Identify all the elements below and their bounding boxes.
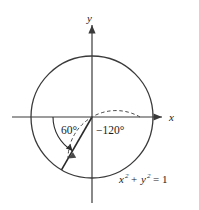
x-axis-label: x xyxy=(168,111,174,123)
angle-minus-120-label: −120° xyxy=(96,124,125,136)
y-axis-arrowhead-icon xyxy=(88,25,95,34)
angle-60-label: 60° xyxy=(61,124,78,136)
y-axis-label: y xyxy=(86,12,92,24)
equation-y-exponent: 2 xyxy=(147,172,151,180)
circle-equation: x 2 + y 2 = 1 xyxy=(118,172,167,185)
equation-x-exponent: 2 xyxy=(125,172,129,180)
equation-y: y xyxy=(140,173,146,185)
x-axis-arrowhead-icon xyxy=(154,113,163,120)
unit-circle-figure: x y 60° −120° x 2 + y 2 = 1 xyxy=(0,0,199,210)
equation-plus: + xyxy=(131,173,137,185)
equation-equals-one: = 1 xyxy=(153,173,167,185)
equation-x: x xyxy=(118,173,124,185)
